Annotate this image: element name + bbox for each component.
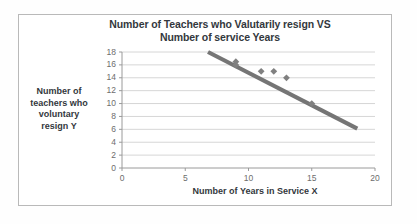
x-tick-label-5: 5 xyxy=(173,173,197,183)
y-tick-label-4: 4 xyxy=(94,137,116,147)
x-tick-label-0: 0 xyxy=(110,173,134,183)
y-tick-label-14: 14 xyxy=(94,72,116,82)
y-tick-label-6: 6 xyxy=(94,124,116,134)
y-tick-label-2: 2 xyxy=(94,150,116,160)
x-tick-label-20: 20 xyxy=(363,173,387,183)
y-tick-label-0: 0 xyxy=(94,163,116,173)
y-tick-label-10: 10 xyxy=(94,98,116,108)
data-point-4 xyxy=(283,74,290,81)
y-tick-label-18: 18 xyxy=(94,47,116,57)
x-tick-label-15: 15 xyxy=(300,173,324,183)
data-point-3 xyxy=(270,68,277,75)
y-tick-label-12: 12 xyxy=(94,85,116,95)
y-tick-label-16: 16 xyxy=(94,59,116,69)
chart-figure: Number of Teachers who Valutarily resign… xyxy=(0,0,417,224)
y-tick-label-8: 8 xyxy=(94,111,116,121)
plot-area: 02468101214161805101520 xyxy=(0,0,417,224)
plot-svg xyxy=(0,0,417,224)
x-tick-label-10: 10 xyxy=(237,173,261,183)
data-point-2 xyxy=(258,68,265,75)
